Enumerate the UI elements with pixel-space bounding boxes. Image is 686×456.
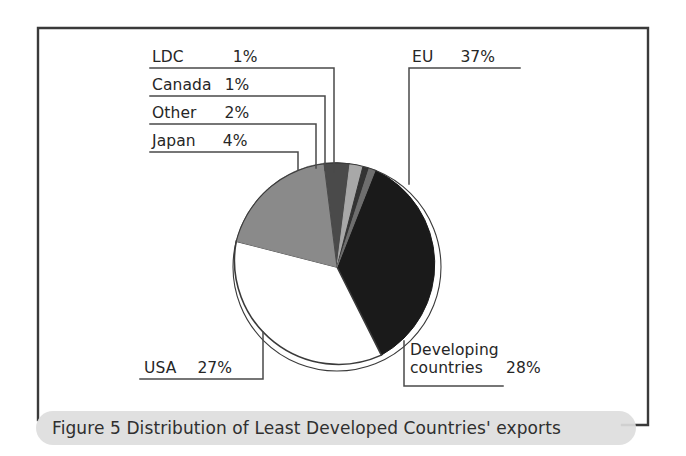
pie-label-canada-name: Canada — [152, 76, 212, 94]
pie-label-canada: Canada 1% — [152, 76, 249, 94]
pie-label-ldc: LDC 1% — [152, 48, 258, 66]
leader-line-japan — [150, 152, 298, 170]
pie-label-developing-countries-value: 28% — [506, 359, 541, 377]
figure-container: LDC 1% Canada 1% Other 2% Japan 4% EU 37… — [0, 0, 686, 456]
pie-label-canada-value: 1% — [225, 76, 250, 94]
pie-label-japan-value: 4% — [223, 132, 248, 150]
pie-label-ldc-name: LDC — [152, 48, 184, 66]
figure-graphic — [0, 0, 686, 456]
pie-label-other-name: Other — [152, 104, 197, 122]
pie-label-developing-countries: Developing countries 28% — [410, 341, 541, 377]
pie-label-eu: EU 37% — [412, 48, 495, 66]
pie-label-other-value: 2% — [225, 104, 250, 122]
pie-label-japan-name: Japan — [152, 132, 196, 150]
pie-label-developing-countries-line2: countries — [410, 359, 483, 377]
pie-chart — [233, 163, 441, 371]
pie-label-usa-name: USA — [144, 359, 176, 377]
pie-label-usa: USA 27% — [144, 359, 232, 377]
pie-label-ldc-value: 1% — [233, 48, 258, 66]
pie-label-developing-countries-line1: Developing — [410, 341, 499, 359]
pie-label-usa-value: 27% — [197, 359, 232, 377]
pie-label-japan: Japan 4% — [152, 132, 248, 150]
pie-label-eu-name: EU — [412, 48, 433, 66]
leader-line-eu — [409, 68, 520, 184]
pie-label-eu-value: 37% — [460, 48, 495, 66]
figure-caption: Figure 5 Distribution of Least Developed… — [52, 416, 561, 440]
pie-label-other: Other 2% — [152, 104, 249, 122]
